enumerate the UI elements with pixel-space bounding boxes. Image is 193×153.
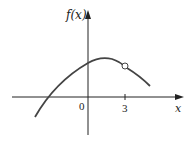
y-axis-label: f(x) xyxy=(65,8,87,22)
open-circle-hole xyxy=(122,63,128,69)
x-axis-arrow-icon xyxy=(175,94,184,100)
origin-label: 0 xyxy=(79,100,85,112)
function-graph: f(x) x 0 3 xyxy=(0,0,193,153)
x-axis xyxy=(12,94,184,100)
tick-label-3: 3 xyxy=(122,102,128,114)
x-axis-label: x xyxy=(175,102,182,115)
curve-right xyxy=(127,68,150,86)
y-axis xyxy=(85,10,91,135)
